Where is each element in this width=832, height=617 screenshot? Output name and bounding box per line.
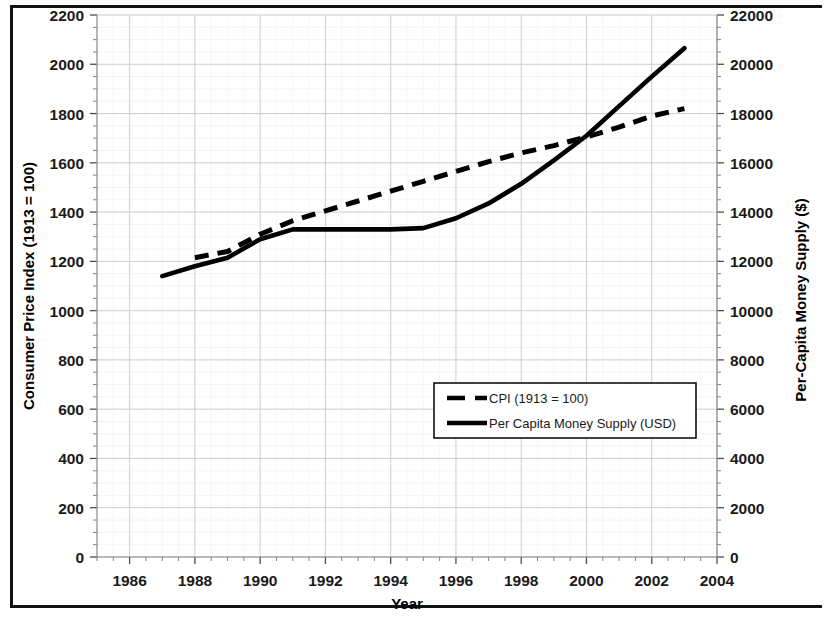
y-right-tick-label: 8000 (730, 352, 764, 369)
x-tick-label: 2002 (634, 572, 668, 589)
y-right-tick-label: 16000 (730, 155, 773, 172)
y-left-tick-label: 800 (58, 352, 84, 369)
y-left-tick-label: 1800 (50, 106, 84, 123)
y-right-tick-label: 12000 (730, 253, 773, 270)
x-axis-title: Year (391, 595, 423, 612)
x-tick-labels: 1986198819901992199419961998200020022004 (112, 572, 734, 589)
y-right-tick-label: 18000 (730, 106, 773, 123)
y-right-tick-label: 4000 (730, 450, 764, 467)
y-left-tick-label: 200 (58, 500, 84, 517)
y-right-tick-label: 20000 (730, 56, 773, 73)
chart-legend: CPI (1913 = 100) Per Capita Money Supply… (434, 383, 696, 438)
y-left-tick-label: 400 (58, 450, 84, 467)
x-tick-label: 2004 (700, 572, 735, 589)
legend-label-cpi: CPI (1913 = 100) (489, 391, 588, 406)
x-tick-label: 1998 (504, 572, 539, 589)
x-tick-label: 1994 (373, 572, 408, 589)
y-right-tick-label: 2000 (730, 500, 764, 517)
x-tick-label: 1992 (308, 572, 342, 589)
y-left-tick-label: 1400 (50, 204, 84, 221)
y-right-tick-labels: 0200040006000800010000120001400016000180… (730, 7, 773, 566)
y-right-tick-label: 22000 (730, 7, 773, 24)
y-left-tick-label: 0 (75, 549, 84, 566)
y-left-tick-labels: 0200400600800100012001400160018002000220… (50, 7, 84, 566)
y-left-tick-label: 1000 (50, 303, 84, 320)
y-left-tick-label: 1200 (50, 253, 84, 270)
y-axis-right-title: Per-Capita Money Supply ($) (792, 198, 809, 401)
x-tick-label: 2000 (569, 572, 603, 589)
chart-figure: 0200400600800100012001400160018002000220… (0, 0, 832, 617)
y-right-tick-label: 10000 (730, 303, 773, 320)
legend-label-money-supply: Per Capita Money Supply (USD) (489, 416, 676, 431)
y-left-tick-label: 2000 (50, 56, 84, 73)
y-left-tick-label: 600 (58, 401, 84, 418)
y-axis-left-title: Consumer Price Index (1913 = 100) (20, 162, 37, 410)
x-tick-label: 1986 (112, 572, 147, 589)
y-right-tick-label: 0 (730, 549, 739, 566)
y-right-tick-label: 6000 (730, 401, 764, 418)
dual-axis-line-chart: 0200400600800100012001400160018002000220… (0, 0, 832, 617)
x-tick-label: 1996 (439, 572, 474, 589)
x-tick-label: 1988 (178, 572, 213, 589)
y-right-tick-label: 14000 (730, 204, 773, 221)
x-tick-label: 1990 (243, 572, 277, 589)
y-left-tick-label: 2200 (50, 7, 84, 24)
y-left-tick-label: 1600 (50, 155, 84, 172)
